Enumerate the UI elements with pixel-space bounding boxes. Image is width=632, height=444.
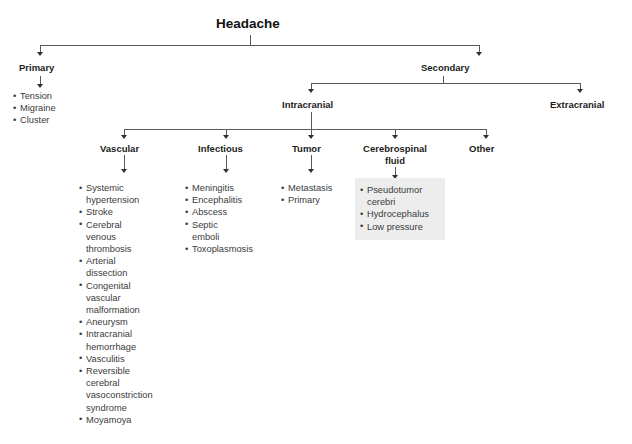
list-item: Primary — [281, 194, 347, 206]
arrowhead-other — [483, 135, 489, 139]
arrowhead-secondary — [476, 52, 482, 56]
node-headache: Headache — [216, 18, 280, 30]
list-item: Pseudotumor cerebri — [360, 184, 437, 208]
node-secondary: Secondary — [421, 62, 470, 74]
arrowhead-tumor — [308, 135, 314, 139]
list-item: Hydrocephalus — [360, 208, 437, 220]
connector-vascular-stem — [124, 155, 125, 169]
node-intracranial: Intracranial — [282, 99, 333, 111]
connector-secondary-stem — [443, 76, 444, 83]
list-item: Encephalitis — [185, 194, 257, 206]
connector-level2-distributor — [311, 83, 580, 84]
connector-primary-stem — [40, 76, 41, 84]
list-item: Tension — [13, 90, 75, 102]
node-other: Other — [469, 143, 494, 155]
connector-to-secondary — [479, 45, 480, 52]
list-item: Metastasis — [281, 182, 347, 194]
list-item: Stroke — [79, 206, 141, 218]
list-tumor: Metastasis Primary — [281, 182, 347, 206]
node-cerebrospinal-fluid: Cerebrospinal fluid — [355, 143, 435, 166]
node-csf-line-2: fluid — [385, 155, 405, 166]
connector-level3-distributor — [124, 129, 486, 130]
node-csf-line-1: Cerebrospinal — [363, 143, 427, 154]
arrowhead-extracranial — [577, 89, 583, 93]
arrowhead-tumor-list — [308, 169, 314, 173]
list-item: Low pressure — [360, 221, 437, 233]
list-item: Vasculitis — [79, 353, 141, 365]
arrowhead-vascular-list — [121, 169, 127, 173]
list-item: Abscess — [185, 206, 257, 218]
connector-infectious-stem — [226, 155, 227, 169]
list-item: Aneurysm — [79, 316, 141, 328]
list-item: Intracranial hemorrhage — [79, 328, 141, 352]
arrowhead-infectious-list — [223, 169, 229, 173]
node-extracranial: Extracranial — [550, 99, 604, 111]
list-item: Reversible cerebral vasoconstriction syn… — [79, 365, 141, 414]
list-cerebrospinal-fluid: Pseudotumor cerebri Hydrocephalus Low pr… — [355, 178, 445, 240]
list-primary: Tension Migraine Cluster — [13, 90, 75, 127]
arrowhead-intracranial — [308, 89, 314, 93]
node-vascular: Vascular — [100, 143, 139, 155]
list-item: Arterial dissection — [79, 255, 141, 279]
node-primary: Primary — [19, 62, 54, 74]
list-item: Moyamoya — [79, 414, 141, 426]
list-item: Systemic hypertension — [79, 182, 141, 206]
list-item: Toxoplasmosis — [185, 243, 257, 255]
list-item: Septic emboli — [185, 219, 228, 243]
connector-to-primary — [40, 45, 41, 52]
list-item: Meningitis — [185, 182, 257, 194]
list-infectious: Meningitis Encephalitis Abscess Septic e… — [185, 182, 257, 255]
arrowhead-vascular — [121, 135, 127, 139]
arrowhead-primary-list — [37, 84, 43, 88]
arrowhead-infectious — [223, 135, 229, 139]
arrowhead-primary — [37, 52, 43, 56]
arrowhead-csf — [392, 135, 398, 139]
node-tumor: Tumor — [292, 143, 321, 155]
list-item: Migraine — [13, 102, 75, 114]
diagram-canvas: Headache Primary Tension Migraine Cluste… — [0, 0, 632, 444]
list-item: Cerebral venous thrombosis — [79, 219, 141, 256]
list-item: Cluster — [13, 114, 75, 126]
node-infectious: Infectious — [198, 143, 243, 155]
connector-csf-stem — [395, 167, 396, 175]
list-vascular: Systemic hypertension Stroke Cerebral ve… — [79, 182, 141, 426]
connector-tumor-stem — [311, 155, 312, 169]
connector-intracranial-stem — [311, 112, 312, 129]
connector-level1-distributor — [40, 45, 479, 46]
list-item: Congenital vascular malformation — [79, 280, 141, 317]
connector-root-stem — [250, 35, 251, 45]
